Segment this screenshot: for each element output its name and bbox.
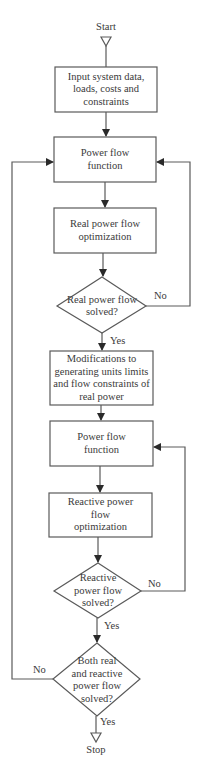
real-opt-box-text: Real power flow optimization xyxy=(54,208,156,253)
power-flow-box-1-text: Power flow function xyxy=(54,137,156,182)
power-flow-box-2-text: Power flow function xyxy=(50,421,153,466)
start-label: Start xyxy=(86,21,126,34)
reactive-solved-decision-text: Reactive power flow solved? xyxy=(54,571,142,611)
start-terminator-icon xyxy=(101,37,111,46)
modifications-box-text: Modifications to generating units limits… xyxy=(48,351,155,405)
real-solved-decision-text: Real power flow solved? xyxy=(57,290,147,322)
reactive-opt-box-text: Reactive power flow optimization xyxy=(49,493,152,537)
d1-yes-label: Yes xyxy=(110,335,125,348)
d2-yes-label: Yes xyxy=(104,620,119,633)
both-solved-decision-text: Both real and reactive power flow solved… xyxy=(53,654,141,706)
d3-no-label: No xyxy=(33,664,46,677)
stop-terminator-icon xyxy=(91,733,101,742)
d2-no-label: No xyxy=(148,578,161,591)
input-box-text: Input system data, loads, costs and cons… xyxy=(55,67,157,112)
stop-label: Stop xyxy=(76,744,116,757)
d1-no-label: No xyxy=(154,290,167,303)
d3-yes-label: Yes xyxy=(100,716,115,729)
